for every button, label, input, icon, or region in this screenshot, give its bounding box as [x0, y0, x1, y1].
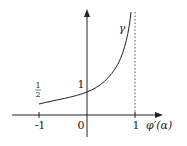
x-axis-arrow-icon [155, 112, 163, 118]
x-tick-label-one: 1 [133, 119, 140, 132]
curve-gamma [39, 12, 131, 104]
x-tick-label-minus-one: -1 [35, 119, 46, 132]
curve-label-gamma: γ [119, 22, 126, 35]
x-axis-label: φ′(α) [146, 119, 172, 132]
y-axis-arrow-icon [84, 9, 90, 17]
y-tick-label-one: 1 [78, 78, 85, 91]
x-tick-label-zero: 0 [78, 119, 85, 132]
y-tick-label-half: 1 2 [35, 81, 41, 99]
svg-text:2: 2 [35, 90, 40, 99]
diagram-canvas: 1 2 1 γ -1 0 1 φ′(α) [0, 0, 187, 146]
svg-text:1: 1 [35, 81, 40, 90]
